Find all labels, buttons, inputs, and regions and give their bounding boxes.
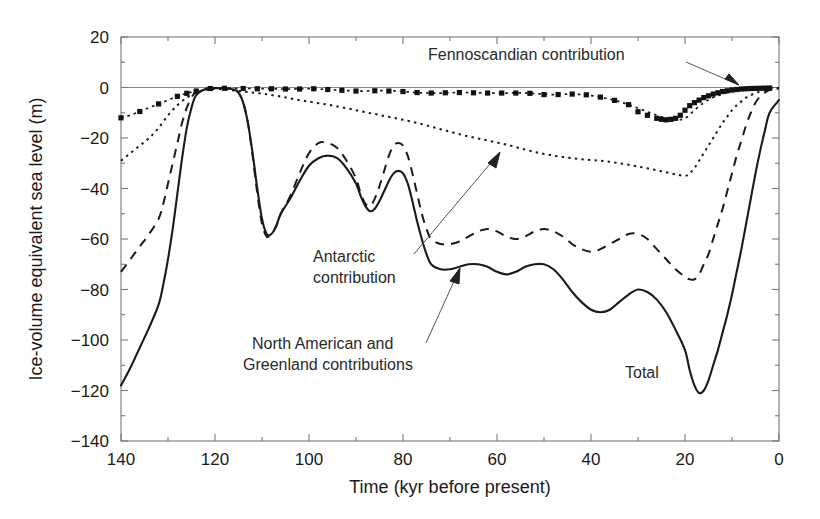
annotation-fennoscandian-line-0: Fennoscandian contribution xyxy=(428,46,625,63)
x-tick-label: 140 xyxy=(107,450,135,469)
x-tick-label: 120 xyxy=(201,450,229,469)
fennoscandian-data-marker xyxy=(682,108,687,113)
fennoscandian-data-marker xyxy=(429,90,434,95)
fennoscandian-data-marker xyxy=(711,91,716,96)
y-tick-label: −100 xyxy=(71,331,109,350)
arrowhead-antarctic xyxy=(488,152,500,168)
y-tick-label: −20 xyxy=(80,129,109,148)
x-tick-label: 60 xyxy=(488,450,507,469)
plot-frame xyxy=(121,37,779,441)
fennoscandian-data-marker xyxy=(118,115,123,120)
annotation-antarctic: Antarctic contribution xyxy=(313,152,500,286)
fennoscandian-data-marker xyxy=(659,117,664,122)
annotation-fennoscandian: Fennoscandian contribution xyxy=(428,46,739,85)
fennoscandian-data-marker xyxy=(222,86,227,91)
fennoscandian-data-marker xyxy=(748,86,753,91)
x-tick-label: 20 xyxy=(676,450,695,469)
fennoscandian-data-marker xyxy=(208,86,213,91)
x-tick-label: 80 xyxy=(394,450,413,469)
fennoscandian-data-marker xyxy=(725,88,730,93)
fennoscandian-data-marker xyxy=(471,90,476,95)
fennoscandian-data-marker xyxy=(664,117,669,122)
fennoscandian-data-marker xyxy=(513,90,518,95)
fennoscandian-data-marker xyxy=(767,85,772,90)
x-tick-label: 40 xyxy=(582,450,601,469)
fennoscandian-data-marker xyxy=(744,86,749,91)
fennoscandian-marker-layer xyxy=(118,85,772,122)
fennoscandian-data-marker xyxy=(598,95,603,100)
fennoscandian-data-marker xyxy=(269,86,274,91)
fennoscandian-data-marker xyxy=(527,91,532,96)
y-tick-label: −40 xyxy=(80,180,109,199)
fennoscandian-data-marker xyxy=(372,88,377,93)
curve-total xyxy=(121,88,779,393)
fennoscandian-data-marker xyxy=(386,88,391,93)
fennoscandian-data-marker xyxy=(194,88,199,93)
fennoscandian-data-marker xyxy=(720,89,725,94)
fennoscandian-data-marker xyxy=(654,116,659,121)
fennoscandian-data-marker xyxy=(457,90,462,95)
leader-line-antarctic xyxy=(414,152,500,254)
annotation-na-line-0: North American and xyxy=(252,335,393,352)
x-axis-title: Time (kyr before present) xyxy=(349,477,550,497)
annotation-na-line-1: Greenland contributions xyxy=(243,356,413,373)
x-tick-label: 0 xyxy=(774,450,783,469)
curve-antarctic xyxy=(121,89,779,176)
fennoscandian-data-marker xyxy=(635,109,640,114)
fennoscandian-data-marker xyxy=(443,90,448,95)
y-tick-label: 20 xyxy=(90,28,109,47)
annotation-total: Total xyxy=(625,364,659,381)
y-tick-label: −120 xyxy=(71,382,109,401)
fennoscandian-data-marker xyxy=(715,90,720,95)
arrowhead-na xyxy=(450,268,460,284)
arrowhead-fennoscandian xyxy=(725,74,739,85)
annotation-total-line-0: Total xyxy=(625,364,659,381)
fennoscandian-data-marker xyxy=(241,86,246,91)
fennoscandian-data-marker xyxy=(706,93,711,98)
fennoscandian-data-marker xyxy=(325,87,330,92)
annotation-antarctic-line-0: Antarctic xyxy=(313,248,375,265)
fennoscandian-data-marker xyxy=(415,90,420,95)
fennoscandian-data-marker xyxy=(556,92,561,97)
fennoscandian-data-marker xyxy=(339,88,344,93)
fennoscandian-data-marker xyxy=(626,102,631,107)
fennoscandian-data-marker xyxy=(673,116,678,121)
fennoscandian-data-marker xyxy=(311,86,316,91)
fennoscandian-data-marker xyxy=(541,92,546,97)
fennoscandian-data-marker xyxy=(729,87,734,92)
fennoscandian-data-marker xyxy=(697,98,702,103)
fennoscandian-data-marker xyxy=(584,92,589,97)
fennoscandian-data-marker xyxy=(297,86,302,91)
y-axis-title: Ice-volume equivalent sea level (m) xyxy=(26,97,46,380)
y-tick-label: −80 xyxy=(80,281,109,300)
fennoscandian-data-marker xyxy=(137,109,142,114)
curve-layer xyxy=(121,88,779,394)
chart-svg: 140120100806040200200−20−40−60−80−100−12… xyxy=(0,0,820,519)
fennoscandian-data-marker xyxy=(156,101,161,106)
y-tick-label: −60 xyxy=(80,230,109,249)
fennoscandian-data-marker xyxy=(175,94,180,99)
fennoscandian-data-marker xyxy=(499,90,504,95)
fennoscandian-data-marker xyxy=(692,100,697,105)
fennoscandian-data-marker xyxy=(184,91,189,96)
fennoscandian-data-marker xyxy=(400,89,405,94)
fennoscandian-data-marker xyxy=(734,87,739,92)
fennoscandian-data-marker xyxy=(645,113,650,118)
fennoscandian-data-marker xyxy=(255,86,260,91)
figure-canvas: 140120100806040200200−20−40−60−80−100−12… xyxy=(0,0,820,519)
fennoscandian-data-marker xyxy=(612,98,617,103)
fennoscandian-data-marker xyxy=(701,95,706,100)
fennoscandian-data-marker xyxy=(678,113,683,118)
fennoscandian-data-marker xyxy=(668,117,673,122)
fennoscandian-data-marker xyxy=(739,86,744,91)
y-tick-label: 0 xyxy=(100,79,109,98)
fennoscandian-data-marker xyxy=(758,86,763,91)
fennoscandian-data-marker xyxy=(687,103,692,108)
annotation-antarctic-line-1: contribution xyxy=(313,269,396,286)
y-tick-label: −140 xyxy=(71,432,109,451)
fennoscandian-data-marker xyxy=(353,88,358,93)
fennoscandian-data-marker xyxy=(485,90,490,95)
x-tick-label: 100 xyxy=(295,450,323,469)
fennoscandian-data-marker xyxy=(570,91,575,96)
fennoscandian-data-marker xyxy=(753,86,758,91)
